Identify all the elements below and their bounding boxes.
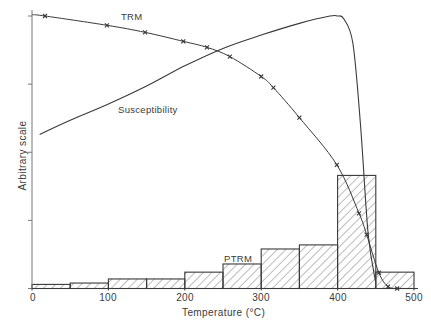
ptrm-label: PTRM — [224, 253, 252, 264]
x-tick-300: 300 — [252, 292, 270, 303]
trm-x-marker-icon — [259, 74, 263, 78]
trm-label: TRM — [121, 11, 142, 22]
trm-x-marker-icon — [271, 86, 275, 90]
ptrm-bar — [223, 264, 261, 289]
ptrm-bar — [147, 279, 185, 289]
trm-x-marker-icon — [335, 163, 339, 167]
ptrm-bar — [32, 284, 70, 288]
chart-canvas — [0, 0, 431, 324]
trm-x-marker-icon — [228, 55, 232, 59]
x-tick-0: 0 — [30, 292, 36, 303]
ptrm-bar — [376, 272, 414, 288]
x-tick-100: 100 — [99, 292, 117, 303]
x-tick-400: 400 — [329, 292, 347, 303]
trm-x-marker-icon — [297, 116, 301, 120]
ptrm-bar — [185, 272, 223, 288]
x-axis-title: Temperature (°C) — [182, 307, 265, 318]
ptrm-bar — [299, 245, 337, 289]
y-axis-title: Arbitrary scale — [17, 121, 28, 191]
ptrm-bar — [261, 249, 299, 289]
susceptibility-label: Susceptibility — [118, 104, 178, 115]
ptrm-bar — [108, 279, 146, 289]
ptrm-bar — [70, 283, 108, 288]
ptrm-bar — [338, 175, 376, 288]
x-tick-500: 500 — [405, 292, 423, 303]
ptrm-histogram — [32, 175, 414, 288]
x-tick-200: 200 — [176, 292, 194, 303]
